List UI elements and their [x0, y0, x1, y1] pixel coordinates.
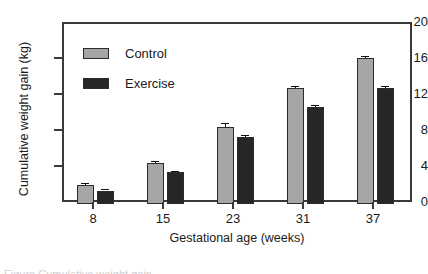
- error-bar-cap: [311, 105, 319, 106]
- bar-exercise-31: [307, 107, 324, 204]
- caption-sliver: Figure Cumulative weight gain: [4, 268, 152, 274]
- y-axis-title: Cumulative weight gain (kg): [17, 19, 31, 219]
- bar-control-15: [147, 163, 164, 204]
- error-bar-cap: [221, 123, 229, 124]
- error-bar-cap: [101, 189, 109, 190]
- x-axis-title: Gestational age (weeks): [62, 231, 412, 245]
- bar-control-31: [287, 88, 304, 204]
- legend-item-control: Control: [83, 42, 175, 64]
- error-bar-cap: [361, 56, 369, 57]
- x-axis-tick-label: 15: [133, 212, 193, 225]
- bar-control-37: [357, 58, 374, 204]
- x-axis-tick-label: 37: [343, 212, 403, 225]
- x-axis-tick: [302, 202, 304, 209]
- legend-swatch-control-icon: [83, 48, 109, 59]
- y-axis-tick: [54, 93, 62, 95]
- legend-swatch-exercise-icon: [83, 78, 109, 89]
- x-axis-tick-label: 8: [63, 212, 123, 225]
- error-bar-cap: [381, 86, 389, 87]
- bar-control-23: [217, 127, 234, 204]
- x-axis-tick-label: 31: [273, 212, 333, 225]
- x-axis-tick: [232, 202, 234, 209]
- bar-exercise-23: [237, 137, 254, 204]
- legend-label-control: Control: [125, 47, 167, 60]
- legend-item-exercise: Exercise: [83, 72, 175, 94]
- y-axis-tick: [54, 165, 62, 167]
- bar-exercise-37: [377, 88, 394, 204]
- x-axis-tick-label: 23: [203, 212, 263, 225]
- figure-container: Cumulative weight gain (kg) 048121620 Co…: [0, 0, 428, 274]
- y-axis-tick: [54, 129, 62, 131]
- bar-control-8: [77, 185, 94, 204]
- error-bar-cap: [151, 161, 159, 162]
- y-axis-tick: [54, 57, 62, 59]
- error-bar-cap: [291, 86, 299, 87]
- error-bar-cap: [241, 135, 249, 136]
- x-axis-tick: [372, 202, 374, 209]
- error-bar-cap: [171, 171, 179, 172]
- bar-exercise-15: [167, 172, 184, 204]
- x-axis-tick: [92, 202, 94, 209]
- x-axis-tick: [162, 202, 164, 209]
- legend: Control Exercise: [83, 42, 175, 102]
- bar-exercise-8: [97, 191, 114, 205]
- error-bar-cap: [81, 183, 89, 184]
- legend-label-exercise: Exercise: [125, 77, 175, 90]
